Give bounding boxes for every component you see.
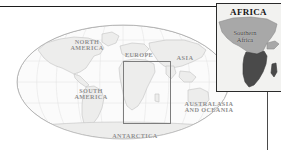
land-australia: [188, 88, 209, 106]
inset-title-africa: AFRICA: [217, 7, 280, 17]
leader-line-vertical: [267, 92, 268, 150]
top-divider-rule: [0, 6, 216, 7]
inset-label-southern-africa: Southern Africa: [223, 30, 267, 43]
figure-locator-map: NORTH AMERICA SOUTH AMERICA EUROPE ASIA …: [0, 0, 281, 150]
inset-map-africa: [217, 16, 281, 92]
world-map: NORTH AMERICA SOUTH AMERICA EUROPE ASIA …: [16, 16, 230, 148]
highlight-rectangle-africa: [123, 61, 171, 124]
inset-panel-africa: AFRICA Southern Africa: [216, 3, 281, 92]
